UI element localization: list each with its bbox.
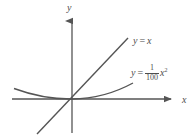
parabola-label-equals: = (137, 68, 143, 78)
figure-graph: y x y=x y = 1 100 x2 (0, 0, 191, 139)
line-label-lhs: y (133, 35, 137, 46)
curve-label-y-equals-x: y=x (133, 36, 152, 46)
line-label-rhs: x (147, 35, 151, 46)
curve-line-y-equals-x (37, 38, 128, 134)
curve-parabola-quadratic (14, 83, 133, 99)
fraction-one-over-hundred: 1 100 (145, 64, 159, 82)
parabola-label-variable: x (160, 68, 164, 78)
x-axis-label: x (182, 95, 186, 105)
curve-label-quadratic: y = 1 100 x2 (131, 64, 168, 82)
y-axis-label: y (67, 3, 71, 13)
line-label-equals: = (139, 35, 145, 46)
fraction-numerator: 1 (149, 64, 155, 72)
fraction-denominator: 100 (145, 74, 159, 82)
parabola-label-lhs: y (131, 68, 135, 78)
